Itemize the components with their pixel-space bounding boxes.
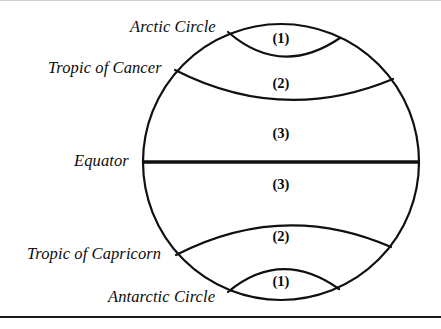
zone-label-south-tropical: (3) (261, 177, 301, 192)
label-arctic-circle: Arctic Circle (130, 19, 216, 36)
globe-diagram (0, 0, 441, 329)
zone-label-south-temperate: (2) (261, 229, 301, 244)
label-tropic-of-capricorn: Tropic of Capricorn (27, 246, 161, 263)
zone-label-north-polar: (1) (261, 31, 301, 46)
page-bottom-rule (0, 316, 441, 318)
diagram-page: Arctic Circle Tropic of Cancer Equator T… (0, 0, 441, 329)
label-tropic-of-cancer: Tropic of Cancer (48, 60, 162, 77)
label-antarctic-circle: Antarctic Circle (108, 289, 215, 306)
zone-label-north-temperate: (2) (261, 76, 301, 91)
zone-label-south-polar: (1) (261, 274, 301, 289)
zone-label-north-tropical: (3) (261, 126, 301, 141)
label-equator: Equator (74, 153, 129, 170)
